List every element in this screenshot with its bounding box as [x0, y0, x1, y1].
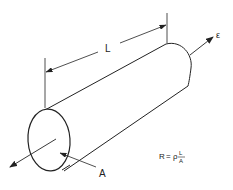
formula-rho: ρ — [173, 152, 178, 161]
formula-lhs: R — [159, 152, 165, 161]
formula-numerator: L — [179, 150, 183, 156]
formula-denominator: A — [179, 158, 183, 164]
diagram-canvas: L A ε R = ρ L A — [0, 0, 233, 190]
resistance-formula: R = ρ L A — [159, 150, 185, 164]
dimension-line-right-segment — [120, 25, 166, 43]
formula-equals: = — [166, 152, 171, 161]
field-arrow-right — [190, 37, 213, 55]
cross-section-ellipse — [26, 108, 72, 173]
length-label: L — [105, 43, 111, 54]
dimension-line-left-segment — [46, 52, 98, 72]
field-label: ε — [216, 30, 220, 40]
cylinder-far-end-arc — [166, 43, 191, 86]
area-label: A — [99, 168, 106, 179]
